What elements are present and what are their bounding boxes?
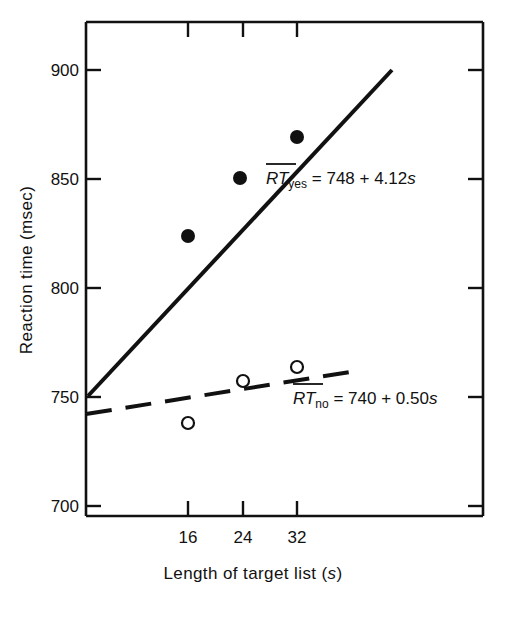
data-point-no-32: [291, 361, 303, 373]
equation-no-body: = 740 + 0.50: [329, 389, 429, 408]
y-axis-title: Reaction time (msec): [17, 186, 36, 355]
equation-annotation-no: RTno = 740 + 0.50s: [293, 384, 438, 411]
y-tick-label-800: 800: [51, 279, 79, 298]
equation-no-text: RTno = 740 + 0.50s: [293, 389, 438, 411]
equation-no-prefix: RT: [293, 389, 317, 408]
equation-annotation-yes: RTyes = 748 + 4.12s: [266, 164, 416, 191]
x-tick-label-32: 32: [288, 528, 307, 547]
data-point-yes-16: [181, 229, 195, 243]
y-tick-label-900: 900: [51, 61, 79, 80]
x-tick-label-24: 24: [234, 528, 253, 547]
data-point-no-16: [182, 417, 194, 429]
reaction-time-chart: 900 850 800 750 700 16 24 32 Reaction ti…: [0, 0, 508, 642]
x-axis-ticks-top: [188, 22, 297, 37]
data-point-yes-24: [233, 171, 247, 185]
x-axis-title-base: Length of target list (: [163, 564, 327, 583]
equation-no-subscript: no: [315, 397, 329, 411]
equation-yes-prefix: RT: [266, 169, 290, 188]
plot-frame: [86, 22, 483, 516]
regression-line-yes: [88, 70, 392, 396]
x-tick-label-16: 16: [179, 528, 198, 547]
x-axis-title-close: ): [337, 564, 343, 583]
x-axis-title-var: s: [328, 564, 337, 583]
y-tick-labels: 900 850 800 750 700: [51, 61, 79, 516]
y-tick-label-700: 700: [51, 497, 79, 516]
x-axis-ticks: [188, 501, 297, 516]
y-axis-ticks-right: [468, 70, 483, 506]
data-point-no-24: [237, 375, 249, 387]
x-axis-title: Length of target list (s): [163, 564, 342, 583]
equation-yes-body: = 748 + 4.12: [307, 169, 407, 188]
y-tick-label-850: 850: [51, 170, 79, 189]
data-point-yes-32: [290, 130, 304, 144]
y-tick-label-750: 750: [51, 388, 79, 407]
x-tick-labels: 16 24 32: [179, 528, 307, 547]
data-points-no: [182, 361, 303, 429]
equation-yes-subscript: yes: [288, 177, 307, 191]
y-axis-ticks: [86, 70, 101, 506]
equation-no-variable: s: [429, 389, 438, 408]
equation-yes-text: RTyes = 748 + 4.12s: [266, 169, 416, 191]
equation-yes-variable: s: [407, 169, 416, 188]
figure-container: 900 850 800 750 700 16 24 32 Reaction ti…: [0, 0, 508, 642]
